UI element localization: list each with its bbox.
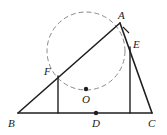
segment-ac <box>120 23 152 113</box>
geometry-figure: A B C D E F O <box>0 0 167 135</box>
vertex-label-c: C <box>148 118 155 129</box>
figure-canvas <box>0 0 167 135</box>
vertex-label-a: A <box>118 10 125 21</box>
vertex-label-b: B <box>8 118 15 129</box>
vertex-label-e: E <box>133 39 140 50</box>
vertex-label-o: O <box>82 94 90 105</box>
segment-ba <box>18 23 120 113</box>
point-d-marker <box>94 111 98 115</box>
point-o-marker <box>84 87 88 91</box>
vertex-label-f: F <box>44 66 51 77</box>
vertex-label-d: D <box>92 118 100 129</box>
